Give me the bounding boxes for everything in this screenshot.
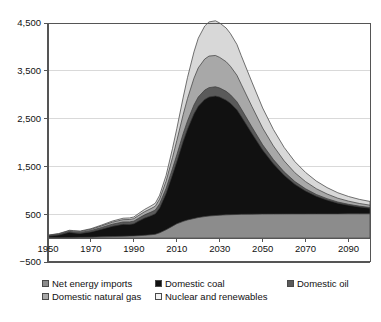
legend-swatch-icon [42,293,49,300]
y-axis-tick-label: 4,500 [17,17,41,28]
legend-item-domestic-natural-gas[interactable]: Domestic natural gas [42,290,141,303]
chart-legend: Net energy importsDomestic coalDomestic … [42,277,378,307]
legend-swatch-icon [155,280,162,287]
legend-row: Net energy importsDomestic coalDomestic … [42,277,378,290]
legend-row: Domestic natural gasNuclear and renewabl… [42,290,378,303]
x-axis-tick-label: 2010 [166,243,187,254]
x-axis-tick-label: 2030 [209,243,230,254]
legend-item-nuclear-and-renewables[interactable]: Nuclear and renewables [155,290,267,303]
legend-item-domestic-coal[interactable]: Domestic coal [155,277,225,290]
x-axis-tick-label: 2050 [252,243,273,254]
legend-swatch-icon [155,293,162,300]
legend-swatch-icon [42,280,49,287]
x-axis-tick-label: 2090 [338,243,359,254]
legend-item-net-energy-imports[interactable]: Net energy imports [42,277,132,290]
x-axis-tick-label: 1950 [37,243,58,254]
legend-label: Net energy imports [52,278,132,289]
x-axis-tick-label: 1990 [123,243,144,254]
legend-label: Nuclear and renewables [165,291,267,302]
legend-label: Domestic oil [297,278,349,289]
legend-label: Domestic coal [165,278,225,289]
y-axis-tick-label: 1,500 [17,161,41,172]
x-axis-tick-label: 1970 [80,243,101,254]
legend-swatch-icon [287,280,294,287]
chart-plot-area: −5005001,5002,5003,5004,5001950197019902… [0,0,381,322]
legend-item-domestic-oil[interactable]: Domestic oil [287,277,349,290]
legend-label: Domestic natural gas [52,291,141,302]
energy-projection-area-chart: −5005001,5002,5003,5004,5001950197019902… [0,0,381,322]
y-axis-tick-label: 2,500 [17,113,41,124]
y-axis-tick-label: 500 [25,209,41,220]
y-axis-tick-label: −500 [20,256,41,267]
x-axis-tick-label: 2070 [295,243,316,254]
y-axis-tick-label: 3,500 [17,65,41,76]
